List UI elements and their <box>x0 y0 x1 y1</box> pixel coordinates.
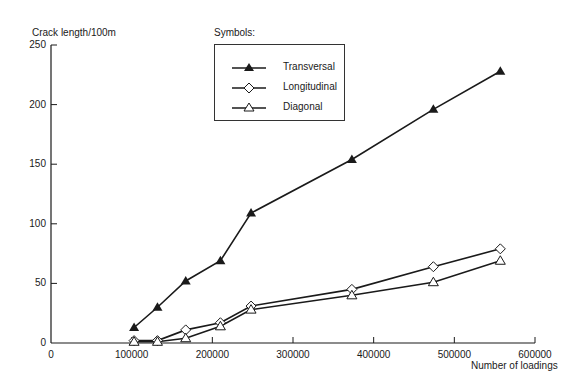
legend-label: Longitudinal <box>283 81 337 92</box>
x-tick-label: 200000 <box>196 349 229 360</box>
legend-item-transversal: Transversal <box>215 61 346 75</box>
open-diamond-marker <box>495 244 505 254</box>
filled-triangle-marker <box>246 208 256 217</box>
x-tick-label: 500000 <box>438 349 471 360</box>
legend-item-longitudinal: Longitudinal <box>215 81 346 95</box>
legend-title: Symbols: <box>214 27 255 38</box>
filled-triangle-marker <box>495 66 505 75</box>
series-line-longitudinal <box>134 249 500 341</box>
x-axis-label: Number of loadings <box>471 360 558 371</box>
y-tick-label: 100 <box>29 218 46 229</box>
legend-label: Transversal <box>283 61 335 72</box>
x-tick-label: 400000 <box>357 349 390 360</box>
y-axis-label: Crack length/100m <box>32 27 116 38</box>
legend: Transversal Longitudinal Diagonal <box>214 44 345 121</box>
filled-triangle-marker <box>428 104 438 113</box>
legend-label: Diagonal <box>283 101 322 112</box>
x-tick-label: 100000 <box>115 349 148 360</box>
x-tick-label: 0 <box>48 349 54 360</box>
y-tick-label: 0 <box>40 337 46 348</box>
open-diamond-marker <box>428 262 438 272</box>
y-tick-label: 250 <box>29 39 46 50</box>
filled-triangle-marker <box>347 154 357 163</box>
x-tick-label: 300000 <box>276 349 309 360</box>
y-tick-label: 200 <box>29 99 46 110</box>
x-tick-label: 600000 <box>518 349 551 360</box>
y-tick-label: 150 <box>29 158 46 169</box>
legend-item-diagonal: Diagonal <box>215 101 346 115</box>
y-tick-label: 50 <box>35 277 46 288</box>
open-triangle-marker <box>495 256 505 265</box>
filled-triangle-marker <box>215 256 225 265</box>
filled-triangle-marker <box>181 276 191 285</box>
